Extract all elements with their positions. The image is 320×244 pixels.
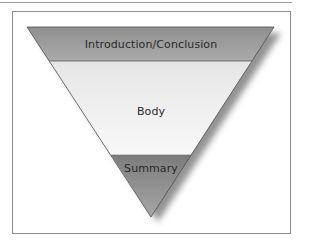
label-body: Body — [137, 105, 165, 118]
label-introduction-conclusion: Introduction/Conclusion — [85, 38, 218, 51]
label-summary: Summary — [124, 162, 178, 175]
